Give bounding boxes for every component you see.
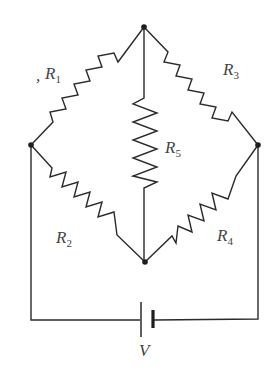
- node-left: [28, 142, 34, 148]
- node-top: [141, 24, 147, 30]
- label-r1-tick: ,: [36, 66, 40, 85]
- wheatstone-bridge-diagram: , R1 R2 R3 R4 R5 V: [0, 0, 275, 371]
- resistor-r1: [31, 27, 144, 145]
- label-r3: R3: [222, 60, 239, 81]
- label-r1: R1: [44, 64, 61, 85]
- resistor-r5: [133, 27, 157, 262]
- label-r4: R4: [216, 226, 233, 247]
- resistor-r4: [145, 145, 258, 262]
- node-bottom: [142, 259, 148, 265]
- resistor-r3: [144, 27, 258, 145]
- label-r2: R2: [55, 228, 72, 249]
- resistor-r2: [31, 145, 145, 262]
- label-v: V: [139, 341, 152, 360]
- node-right: [255, 142, 261, 148]
- label-r5: R5: [164, 138, 181, 159]
